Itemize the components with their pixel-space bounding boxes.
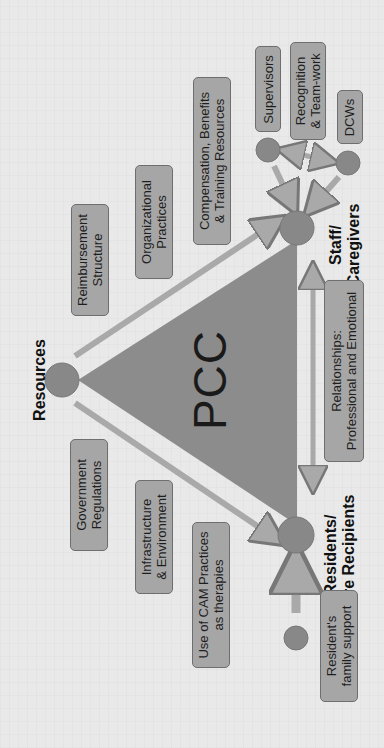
box-government: Government Regulations [70, 439, 108, 551]
box-dcws: DCWs [337, 90, 363, 144]
box-compensation: Compensation, Benefits & Training Resour… [193, 77, 231, 245]
box-cam: Use of CAM Practices as therapies [192, 522, 230, 668]
dcws-node [336, 151, 360, 175]
supervisors-node [256, 138, 280, 162]
box-infrastructure: Infrastructure & Environment [135, 480, 173, 594]
pcc-label: PCC [175, 330, 245, 430]
family-node [284, 626, 308, 650]
resources-label: Resources [20, 330, 60, 430]
box-relationships: Relationships: Professional and Emotiona… [324, 280, 364, 462]
box-recognition: Recognition & Team-work [290, 42, 326, 140]
arrow-supervisors-staff [274, 166, 290, 200]
box-organizational: Organizational Practices [135, 165, 173, 279]
box-supervisors: Supervisors [255, 46, 281, 132]
box-family: Resident's family support [320, 590, 358, 702]
residents-node [278, 517, 314, 553]
arrow-supervisors-dcws [290, 152, 325, 160]
staff-node [280, 211, 314, 245]
box-reimbursement: Reimbursement Structure [71, 204, 109, 316]
